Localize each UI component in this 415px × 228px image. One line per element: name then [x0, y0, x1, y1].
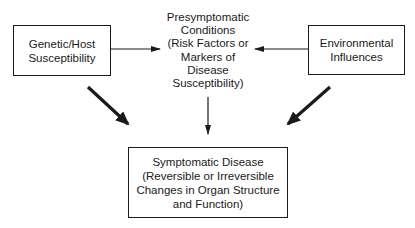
node-label-line: Susceptibility: [28, 51, 95, 65]
node-environmental-influences: Environmental Influences: [308, 25, 405, 75]
node-label-line: Environmental: [320, 36, 394, 50]
node-label-line: Susceptibility): [148, 77, 268, 90]
node-symptomatic-disease: Symptomatic Disease (Reversible or Irrev…: [128, 147, 288, 218]
node-label-line: and Function): [173, 197, 243, 211]
arrow-environmental-to-symptomatic: [288, 87, 330, 124]
node-label-line: Conditions: [148, 24, 268, 37]
node-label-line: Changes in Organ Structure: [136, 183, 279, 197]
node-label-line: Symptomatic Disease: [152, 155, 263, 169]
node-label-line: Markers of: [148, 51, 268, 64]
node-label-line: (Risk Factors or: [148, 37, 268, 50]
arrow-genetic-to-symptomatic: [88, 87, 128, 124]
node-label-line: Disease: [148, 64, 268, 77]
node-label-line: Presymptomatic: [148, 11, 268, 24]
node-label-line: Influences: [330, 50, 382, 64]
node-label-line: (Reversible or Irreversible: [142, 169, 274, 183]
node-genetic-host-susceptibility: Genetic/Host Susceptibility: [13, 25, 111, 76]
node-presymptomatic-conditions: Presymptomatic Conditions (Risk Factors …: [148, 11, 268, 90]
node-label-line: Genetic/Host: [29, 37, 95, 51]
